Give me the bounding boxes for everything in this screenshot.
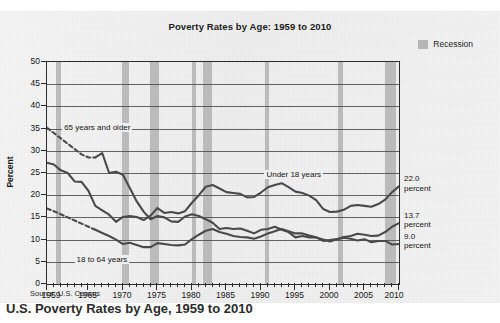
x-tick-minor [232,283,233,287]
x-tick-minor [274,283,275,287]
y-tick-label: 40 [2,100,40,110]
x-tick-label: 2000 [320,290,339,300]
x-tick-minor [53,283,54,287]
y-tick-label: 45 [2,78,40,88]
x-tick-minor [163,283,164,287]
callout-unit: percent [404,220,464,229]
x-tick-minor [377,283,378,287]
recession-legend-swatch [418,40,428,49]
recession-legend-label: Recession [433,39,473,49]
figure-caption-text: U.S. Poverty Rates by Age, 1959 to 2010 [6,303,253,316]
callout-unit: percent [404,241,464,250]
x-tick-label: 1990 [250,290,269,300]
x-tick-major [329,283,330,290]
y-tick-label: 0 [2,278,40,288]
x-tick-major [294,283,295,290]
y-tick-label: 10 [2,234,40,244]
y-tick-label: 15 [2,211,40,221]
x-tick-minor [357,283,358,287]
series-line-dashed-2 [47,209,95,230]
x-tick-minor [60,283,61,287]
series-annotation: 18 to 64 years [75,255,130,264]
figure-caption: U.S. Poverty Rates by Age, 1959 to 2010 [0,303,500,323]
clipped-top-text-strip: · · · · · · · · · · · · · · [0,0,500,11]
series-end-value-callout: 22.0percent [404,174,464,192]
y-tick-label: 20 [2,189,40,199]
series-end-value-callout: 13.7percent [404,211,464,229]
series-line-2 [95,223,399,247]
x-tick-minor [150,283,151,287]
series-line-0 [95,153,399,244]
x-tick-label: 1995 [285,290,304,300]
x-tick-minor [67,283,68,287]
x-tick-minor [308,283,309,287]
series-annotation: 65 years and older [62,123,132,132]
x-tick-major [260,283,261,290]
x-tick-major [191,283,192,290]
y-tick-label: 25 [2,167,40,177]
x-tick-minor [253,283,254,287]
x-tick-major [363,283,364,290]
plot-area: 65 years and olderUnder 18 years18 to 64… [46,61,400,285]
x-tick-minor [212,283,213,287]
x-tick-label: 2005 [354,290,373,300]
series-line-1 [47,163,399,222]
x-tick-label: 1970 [112,290,131,300]
x-tick-minor [143,283,144,287]
y-tick-label: 35 [2,123,40,133]
y-axis: 05101520253035404550 [0,61,46,283]
x-tick-minor [350,283,351,287]
x-tick-minor [170,283,171,287]
x-tick-minor [205,283,206,287]
callout-value: 13.7 [404,211,464,220]
x-tick-minor [384,283,385,287]
x-tick-minor [267,283,268,287]
clipped-top-text: · · · · · · · · · · · · · · [8,0,99,4]
callout-unit: percent [404,184,464,193]
y-tick-label: 5 [2,256,40,266]
series-lines [47,62,399,284]
source-note: Source: U.S. Census [30,289,100,298]
x-tick-minor [129,283,130,287]
x-tick-minor [281,283,282,287]
x-tick-label: 1985 [216,290,235,300]
x-tick-minor [94,283,95,287]
x-tick-minor [101,283,102,287]
poverty-rates-chart-figure: Poverty Rates by Age: 1959 to 2010 Reces… [0,11,500,303]
callout-value: 22.0 [404,174,464,183]
x-tick-minor [115,283,116,287]
x-tick-minor [239,283,240,287]
callout-value: 9.0 [404,232,464,241]
x-tick-minor [108,283,109,287]
y-tick-label: 50 [2,56,40,66]
x-tick-minor [288,283,289,287]
x-tick-minor [198,283,199,287]
x-tick-major [156,283,157,290]
x-tick-label: 2010 [385,290,404,300]
x-tick-minor [336,283,337,287]
x-tick-minor [322,283,323,287]
series-end-value-callout: 9.0percent [404,232,464,250]
plot-inner: 65 years and olderUnder 18 years18 to 64… [47,62,399,284]
x-tick-label: 1980 [181,290,200,300]
x-tick-minor [184,283,185,287]
x-tick-minor [370,283,371,287]
x-tick-major [122,283,123,290]
x-tick-major [225,283,226,290]
x-tick-minor [301,283,302,287]
x-tick-minor [74,283,75,287]
series-line-dashed-0 [47,128,95,158]
x-tick-minor [136,283,137,287]
chart-title: Poverty Rates by Age: 1959 to 2010 [0,21,500,32]
x-tick-major [398,283,399,290]
x-tick-minor [246,283,247,287]
x-tick-minor [343,283,344,287]
x-tick-minor [391,283,392,287]
x-tick-minor [219,283,220,287]
series-annotation: Under 18 years [264,170,323,179]
x-tick-label: 1975 [147,290,166,300]
y-tick-label: 30 [2,145,40,155]
x-tick-minor [177,283,178,287]
x-tick-minor [81,283,82,287]
x-tick-minor [315,283,316,287]
